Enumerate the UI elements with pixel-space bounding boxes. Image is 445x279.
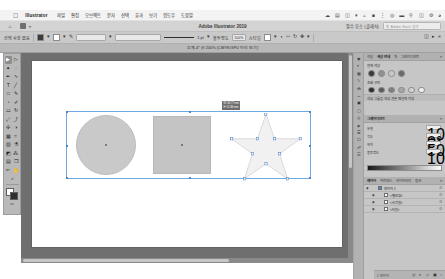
tab-gradient[interactable]: 그레이디언트 — [401, 54, 419, 59]
reflect-icon[interactable]: ⇿ — [286, 35, 290, 40]
document-setup-icon[interactable]: ▸ — [432, 35, 435, 40]
color-swatch[interactable] — [368, 87, 375, 94]
dropbox-icon[interactable]: ☁ — [325, 13, 330, 18]
new-sublayer-icon[interactable]: ◇ — [426, 273, 429, 277]
brush-icon[interactable]: ✎ — [69, 35, 73, 40]
layer-row[interactable]: ◉<별모양>O — [364, 192, 445, 199]
fill-swatch[interactable] — [37, 34, 44, 41]
panel-menu-icon[interactable]: ≡ — [440, 179, 442, 183]
tab-stroke[interactable]: 획 — [394, 54, 397, 59]
stroke-color-swatch[interactable] — [10, 192, 18, 200]
wifi-icon[interactable]: ▾ — [355, 13, 358, 18]
color-swatch[interactable] — [378, 87, 385, 94]
artboard[interactable]: W: 48.77 mm H: 51.86 mm — [32, 61, 342, 247]
artboard-tool[interactable]: ❐ — [12, 158, 20, 166]
macos-menu-file[interactable]: 파일 — [57, 12, 65, 18]
macos-menu-window[interactable]: 윈도우 — [163, 12, 175, 18]
layer-row[interactable]: ◉<타원>O — [364, 206, 445, 213]
eye-icon[interactable]: ◉ — [372, 200, 376, 204]
chevron-down-icon[interactable]: ▾ — [207, 35, 210, 40]
eye-icon[interactable]: ◉ — [366, 186, 370, 190]
arrange-panel-icon[interactable]: ◫ — [424, 35, 429, 40]
brushes-icon[interactable]: ✎ — [357, 79, 360, 83]
selection-handle[interactable] — [309, 177, 311, 179]
gradient-angle-value[interactable]: 0° — [426, 133, 441, 138]
swatches-icon[interactable]: ▦ — [357, 72, 361, 76]
selection-handle[interactable] — [309, 145, 311, 147]
display-icon[interactable]: ◫ — [345, 13, 350, 18]
save-color-group-row[interactable]: 색상 그룹을 색상 견본 패널에 저장 — [364, 94, 445, 101]
shape-builder-tool[interactable]: ◑ — [12, 124, 20, 132]
rotate-tool[interactable]: ↻ — [12, 107, 20, 115]
blend-tool[interactable]: ◩ — [5, 150, 13, 158]
keyboard-icon[interactable]: ▬ — [399, 13, 404, 18]
eye-icon[interactable]: ◉ — [372, 207, 376, 211]
column-graph-tool[interactable]: ▤ — [5, 158, 13, 166]
symbol-sprayer-tool[interactable]: ⁂ — [12, 150, 20, 158]
macos-menu-select[interactable]: 선택 — [121, 12, 129, 18]
apple-logo-icon[interactable]:  — [13, 12, 18, 19]
selection-handle[interactable] — [66, 145, 68, 147]
gradient-tool[interactable]: ▨ — [5, 141, 13, 149]
adobe-stock-search[interactable]: ⚲ Adobe Stock 검색 — [383, 22, 441, 30]
mesh-tool[interactable]: ⌗ — [12, 133, 20, 141]
scrollbar-thumb[interactable] — [23, 259, 229, 262]
tab-libraries[interactable]: 라이브러리 — [396, 178, 411, 183]
layer-row[interactable]: ◉<사각형>O — [364, 199, 445, 206]
eye-icon[interactable]: ◉ — [372, 193, 376, 197]
tab-layers[interactable]: 레이어 — [367, 178, 376, 183]
layer-target-icon[interactable]: O — [440, 193, 442, 197]
color-guide-icon[interactable]: ◐ — [357, 64, 360, 68]
chevron-down-icon[interactable]: ▾ — [63, 35, 66, 40]
libraries-icon[interactable]: ☷ — [357, 153, 361, 157]
layers-icon[interactable]: ☰ — [357, 131, 361, 135]
shaper-tool[interactable]: ◔ — [5, 99, 13, 107]
new-layer-icon[interactable]: ▣ — [433, 273, 437, 277]
selection-handle[interactable] — [309, 111, 311, 113]
color-swatch[interactable] — [388, 70, 395, 77]
color-icon[interactable]: ◉ — [357, 57, 360, 61]
magic-wand-tool[interactable]: ✦ — [5, 65, 13, 73]
search-icon[interactable]: ⚲ — [409, 13, 413, 18]
perspective-grid-tool[interactable]: ▦ — [5, 133, 13, 141]
battery-icon[interactable]: ▤ — [335, 13, 340, 18]
panel-menu-icon[interactable]: ≡ — [440, 55, 442, 59]
selection-tool[interactable]: ▶ — [5, 56, 13, 64]
locate-object-icon[interactable]: ◎ — [412, 273, 415, 277]
opacity-value[interactable]: 100% — [232, 34, 246, 42]
panel-menu-icon[interactable]: ≡ — [440, 117, 442, 121]
hand-tool[interactable]: ✋ — [12, 167, 20, 175]
stroke-swatch[interactable] — [53, 34, 60, 41]
tab-artboards[interactable]: 아트보드 — [380, 178, 392, 183]
direct-selection-tool[interactable]: ▷ — [12, 56, 20, 64]
artboards-icon[interactable]: ☐ — [357, 138, 361, 142]
macos-menu-edit[interactable]: 편집 — [71, 12, 79, 18]
macos-menu-effect[interactable]: 효과 — [135, 12, 143, 18]
type-tool[interactable]: T — [5, 82, 13, 90]
chevron-down-icon[interactable]: ▾ — [109, 35, 112, 40]
macos-menu-object[interactable]: 오브젝트 — [85, 12, 101, 18]
lasso-tool[interactable]: ◌ — [12, 65, 20, 73]
line-segment-tool[interactable]: ╱ — [12, 82, 20, 90]
free-transform-tool[interactable]: ✣ — [5, 124, 13, 132]
eyedropper-tool[interactable]: ⚗ — [12, 141, 20, 149]
color-swatch[interactable] — [418, 87, 425, 94]
graphic-styles-icon[interactable]: ◈ — [357, 124, 360, 128]
macos-active-app-name[interactable]: Illustrator — [25, 13, 47, 18]
stroke-icon[interactable]: ⚊ — [357, 94, 361, 98]
volume-icon[interactable]: ■ — [372, 13, 375, 18]
macos-menu-help[interactable]: 도움말 — [181, 12, 193, 18]
layer-target-icon[interactable]: O — [440, 186, 442, 190]
macos-menu-type[interactable]: 문자 — [107, 12, 115, 18]
scrollbar-thumb[interactable] — [349, 55, 352, 168]
document-tab[interactable]: 무제-4* @ 200% (CMYK/GPU 미리 보기) — [0, 44, 445, 50]
star-shape[interactable] — [230, 113, 302, 181]
workspace-switcher[interactable]: 필수 요소 (클래식) — [346, 23, 379, 29]
tab-links[interactable]: 링크 — [415, 178, 421, 183]
transform-icon[interactable]: ✥ — [300, 35, 304, 40]
appearance-icon[interactable]: ◎ — [357, 116, 360, 120]
gradient-icon[interactable]: ▣ — [357, 101, 361, 105]
gradient-slider[interactable] — [367, 165, 442, 171]
tab-color[interactable]: 색상 — [367, 54, 373, 59]
fill-stroke-control[interactable] — [6, 188, 19, 199]
